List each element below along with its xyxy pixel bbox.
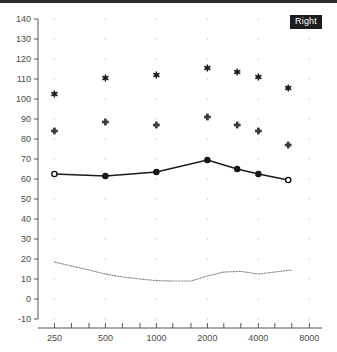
data-point-ucl-cross: [255, 128, 262, 135]
data-point-ucl-cross: [204, 114, 211, 121]
series-threshold: [52, 157, 291, 182]
svg-text:40: 40: [21, 214, 31, 224]
grid-dots: [54, 18, 310, 320]
data-point-ucl-cross: [234, 122, 241, 129]
svg-text:10: 10: [21, 274, 31, 284]
plot-canvas: 1401301201101009080706050403020100-10 25…: [0, 3, 337, 352]
svg-text:2000: 2000: [197, 333, 217, 343]
data-point-ucl-star: [204, 65, 210, 72]
x-axis-tick-labels: 2505001000200040008000: [47, 333, 319, 343]
data-point-threshold: [205, 157, 210, 162]
audiogram-chart: 1401301201101009080706050403020100-10 25…: [0, 3, 337, 352]
svg-text:100: 100: [16, 94, 31, 104]
data-point-threshold: [103, 173, 108, 178]
data-point-ucl-cross: [153, 122, 160, 129]
data-point-ucl-cross: [102, 119, 109, 126]
data-point-ucl-star: [255, 74, 261, 81]
data-point-threshold: [286, 177, 291, 182]
series-noise-floor: [54, 262, 291, 281]
svg-text:30: 30: [21, 234, 31, 244]
svg-text:140: 140: [16, 14, 31, 24]
svg-text:90: 90: [21, 114, 31, 124]
data-point-ucl-star: [234, 69, 240, 76]
series-ucl-star: [51, 65, 291, 98]
data-point-ucl-star: [285, 85, 291, 92]
svg-text:250: 250: [47, 333, 62, 343]
svg-text:110: 110: [17, 74, 31, 84]
svg-text:20: 20: [21, 254, 31, 264]
data-point-ucl-star: [153, 72, 159, 79]
svg-text:120: 120: [16, 54, 31, 64]
series-ucl-cross: [51, 114, 292, 149]
svg-text:-10: -10: [18, 314, 31, 324]
data-point-ucl-star: [102, 75, 108, 82]
data-point-ucl-cross: [51, 128, 58, 135]
svg-text:60: 60: [21, 174, 31, 184]
svg-text:0: 0: [26, 294, 31, 304]
data-point-threshold: [52, 171, 57, 176]
svg-text:500: 500: [98, 333, 113, 343]
data-point-threshold: [256, 171, 261, 176]
axes: [34, 19, 322, 328]
data-point-threshold: [235, 166, 240, 171]
svg-text:1000: 1000: [146, 333, 166, 343]
data-point-threshold: [154, 169, 159, 174]
svg-text:80: 80: [21, 134, 31, 144]
data-point-ucl-star: [51, 91, 57, 98]
svg-text:8000: 8000: [299, 333, 319, 343]
data-point-ucl-cross: [285, 142, 292, 149]
svg-text:50: 50: [21, 194, 31, 204]
y-axis-tick-labels: 1401301201101009080706050403020100-10: [16, 14, 31, 324]
svg-text:70: 70: [21, 154, 31, 164]
ear-side-badge: Right: [290, 15, 322, 29]
svg-text:4000: 4000: [248, 333, 268, 343]
svg-text:130: 130: [16, 34, 31, 44]
